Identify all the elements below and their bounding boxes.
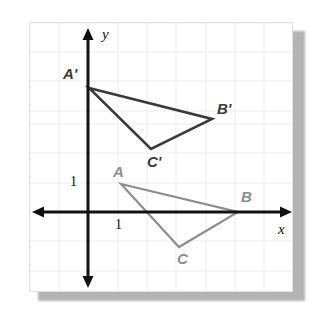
vertex-label-a-prime: A': [63, 65, 77, 82]
triangle-a-prime-b-prime-c-prime-outline: [89, 88, 212, 149]
preimage-triangle-abc: [121, 184, 238, 247]
x-axis-label: x: [278, 221, 285, 238]
vertex-label-c-prime: C': [147, 153, 161, 170]
y-axis-arrow-up: [83, 28, 94, 40]
vertex-label-b: B: [241, 188, 252, 205]
coordinate-plane-frame: y x 1 1 A' B' C' A B C: [29, 22, 293, 292]
y-axis: [83, 28, 94, 288]
y-axis-arrow-down: [83, 276, 94, 288]
x-axis-arrow-right: [280, 207, 292, 218]
triangle-abc-outline: [121, 184, 238, 247]
x-unit-tick-label: 1: [115, 217, 122, 233]
vertex-label-a: A: [113, 163, 124, 180]
vertex-label-b-prime: B': [217, 100, 231, 117]
coordinate-plane-svg: [30, 23, 293, 292]
grid-lines: [30, 23, 293, 292]
y-unit-tick-label: 1: [70, 174, 77, 190]
y-axis-label: y: [102, 26, 109, 43]
x-axis-arrow-left: [32, 207, 44, 218]
image-triangle-a-prime-b-prime-c-prime: [89, 88, 212, 149]
x-axis: [32, 207, 292, 218]
vertex-label-c: C: [177, 250, 188, 267]
figure-root: y x 1 1 A' B' C' A B C: [0, 0, 320, 330]
